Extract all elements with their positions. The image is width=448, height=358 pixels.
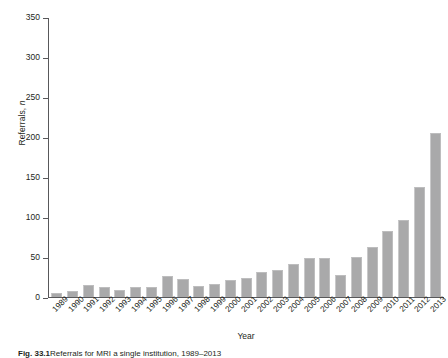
bar-slot — [333, 18, 349, 297]
bar[interactable] — [414, 187, 425, 297]
figure-caption: Fig. 33.1Referrals for MRI a single inst… — [18, 349, 438, 358]
bar[interactable] — [304, 258, 315, 297]
bar-slot — [128, 18, 144, 297]
figure-caption-label: Fig. 33.1 — [18, 349, 50, 358]
bar-series — [49, 18, 443, 297]
bar-slot — [412, 18, 428, 297]
bar[interactable] — [430, 133, 441, 297]
y-tick: 150 — [43, 178, 48, 179]
bar-slot — [175, 18, 191, 297]
y-tick-label: 350 — [26, 12, 40, 22]
figure-caption-text: Referrals for MRI a single institution, … — [50, 349, 221, 358]
bar-slot — [238, 18, 254, 297]
bar[interactable] — [382, 231, 393, 297]
bar-slot — [191, 18, 207, 297]
y-tick: 100 — [43, 218, 48, 219]
bar[interactable] — [193, 286, 204, 297]
bar-slot — [207, 18, 223, 297]
bar[interactable] — [335, 275, 346, 297]
bar[interactable] — [177, 279, 188, 297]
bar[interactable] — [209, 284, 220, 297]
bar-slot — [301, 18, 317, 297]
bar-slot — [285, 18, 301, 297]
y-tick-label: 0 — [35, 292, 40, 302]
figure-bar-chart: Referrals, n 050100150200250300350 19891… — [0, 0, 448, 358]
y-tick: 300 — [43, 58, 48, 59]
bar-slot — [396, 18, 412, 297]
y-tick: 0 — [43, 298, 48, 299]
y-tick-label: 100 — [26, 212, 40, 222]
bar-slot — [364, 18, 380, 297]
bar-slot — [112, 18, 128, 297]
bar[interactable] — [319, 258, 330, 297]
bar-slot — [144, 18, 160, 297]
y-tick: 350 — [43, 18, 48, 19]
bar-slot — [96, 18, 112, 297]
y-axis-title: Referrals, n — [17, 63, 27, 183]
bar[interactable] — [162, 276, 173, 297]
bar-slot — [65, 18, 81, 297]
bar-slot — [349, 18, 365, 297]
bar[interactable] — [272, 270, 283, 297]
y-tick-label: 300 — [26, 52, 40, 62]
y-tick: 250 — [43, 98, 48, 99]
bar-slot — [254, 18, 270, 297]
y-tick: 50 — [43, 258, 48, 259]
y-tick-label: 250 — [26, 92, 40, 102]
y-tick-label: 50 — [31, 252, 40, 262]
bar[interactable] — [351, 257, 362, 297]
bar[interactable] — [241, 278, 252, 297]
bar[interactable] — [256, 272, 267, 297]
plot-area: 050100150200250300350 — [48, 18, 444, 298]
bar-slot — [427, 18, 443, 297]
bar-slot — [222, 18, 238, 297]
x-axis-title: Year — [48, 331, 444, 341]
bar[interactable] — [367, 247, 378, 297]
bar-slot — [317, 18, 333, 297]
bar-slot — [81, 18, 97, 297]
bar-slot — [159, 18, 175, 297]
bar[interactable] — [288, 264, 299, 297]
bar[interactable] — [225, 280, 236, 297]
y-tick-label: 150 — [26, 172, 40, 182]
bar-slot — [380, 18, 396, 297]
bar-slot — [49, 18, 65, 297]
y-tick: 200 — [43, 138, 48, 139]
bar-slot — [270, 18, 286, 297]
bar[interactable] — [398, 220, 409, 297]
y-tick-label: 200 — [26, 132, 40, 142]
